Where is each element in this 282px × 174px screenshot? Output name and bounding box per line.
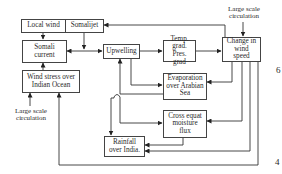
node-somalijet: Somalijet (65, 19, 104, 33)
node-temp-pres-grad: Temp. grad. Pres. grad (163, 40, 196, 62)
node-label: Cross equat moisture flux (167, 113, 203, 136)
node-evaporation: Evaporation over Arabian Sea (163, 73, 207, 100)
node-wind-stress: Wind stress over Indian Ocean (22, 70, 80, 93)
node-change-wind-speed: Change in wind speed (222, 37, 261, 62)
page-number-six: 6 (276, 65, 281, 75)
node-rainfall: Rainfall over India. (104, 136, 145, 157)
label-large-scale-circulation-top: Large scale circulation (222, 6, 266, 21)
node-label: Upwelling (106, 48, 136, 56)
node-label: Evaporation over Arabian Sea (166, 75, 204, 98)
node-cross-equat: Cross equat moisture flux (163, 110, 207, 138)
label-large-scale-circulation-left: Large scale circulation (10, 108, 52, 123)
node-upwelling: Upwelling (103, 44, 140, 59)
node-label: Somalijet (71, 22, 99, 30)
page-number-four: 4 (275, 157, 280, 167)
node-somali-current: Somali current (22, 40, 67, 63)
node-label: Somali current (31, 44, 58, 59)
node-label: Temp. grad. Pres. grad (167, 36, 192, 66)
node-label: Local wind (27, 22, 60, 30)
node-label: Rainfall over India. (108, 139, 141, 154)
node-label: Wind stress over Indian Ocean (24, 74, 78, 89)
node-local-wind: Local wind (21, 19, 66, 33)
node-label: Change in wind speed (226, 38, 257, 61)
